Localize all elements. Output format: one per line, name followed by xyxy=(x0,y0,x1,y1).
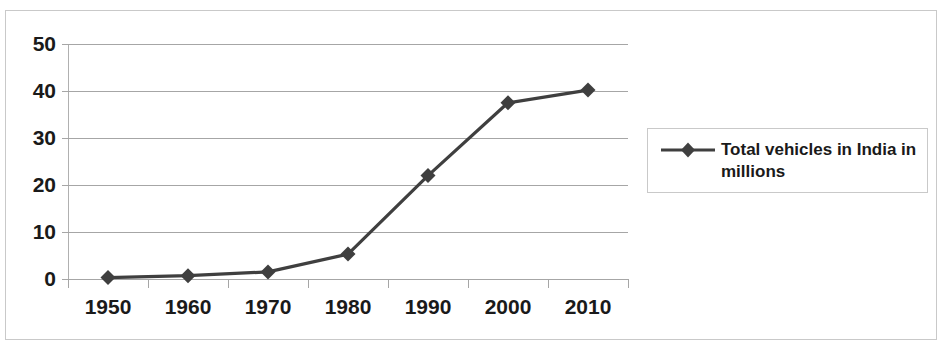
x-axis-tick xyxy=(228,280,229,288)
legend-label: Total vehicles in India in millions xyxy=(721,139,919,183)
x-axis-tick xyxy=(308,280,309,288)
x-axis-tick xyxy=(388,280,389,288)
data-point-marker xyxy=(581,83,596,98)
y-axis-tick xyxy=(62,185,69,186)
x-axis-tick xyxy=(148,280,149,288)
legend-entry: Total vehicles in India in millions xyxy=(660,139,919,183)
y-axis-tick xyxy=(62,44,69,45)
x-axis-tick xyxy=(468,280,469,288)
data-point-marker xyxy=(181,268,196,283)
data-point-marker xyxy=(261,264,276,279)
x-axis-tick xyxy=(68,280,69,288)
data-point-marker xyxy=(101,270,116,285)
y-axis-tick xyxy=(62,232,69,233)
x-axis-tick xyxy=(628,280,629,288)
x-axis-tick xyxy=(548,280,549,288)
legend-marker-icon xyxy=(660,139,716,161)
y-axis-tick xyxy=(62,138,69,139)
chart-canvas: 01020304050 1950196019701980199020002010… xyxy=(0,0,943,347)
y-axis-tick xyxy=(62,91,69,92)
chart-legend: Total vehicles in India in millions xyxy=(647,128,928,193)
